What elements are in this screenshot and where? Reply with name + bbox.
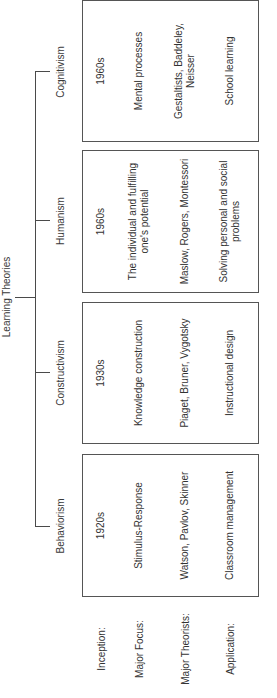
application-value: Solving personal and social problems: [218, 155, 242, 288]
application-value: Classroom management: [224, 459, 236, 592]
tree-horizontal-line: [35, 71, 36, 527]
major-focus-value: Mental processes: [133, 5, 145, 137]
theory-name-cognitivism: Cognitivism: [55, 17, 67, 127]
major-theorists-value: Watson, Pavlov, Skinner: [179, 459, 191, 592]
root-connector-line: [15, 297, 35, 298]
inception-value: 1920s: [95, 459, 107, 592]
row-label-major-focus: Major Focus:: [134, 600, 146, 698]
major-theorists-value: Maslow, Rogers, Montessori: [179, 155, 191, 288]
inception-value: 1930s: [95, 307, 107, 439]
theory-name-humanism: Humanism: [55, 166, 67, 276]
major-focus-value: Knowledge construction: [133, 307, 145, 439]
row-label-inception: Inception:: [96, 600, 108, 698]
major-focus-value: Stimulus-Response: [133, 459, 145, 592]
row-label-major-theorists: Major Theorists:: [180, 600, 192, 698]
inception-value: 1960s: [95, 5, 107, 137]
theory-box-behaviorism: 1920s Stimulus-Response Watson, Pavlov, …: [82, 454, 259, 597]
application-value: Instructional design: [224, 307, 236, 439]
branch-line-behaviorism: [35, 526, 50, 527]
theory-name-constructivism: Constructivism: [55, 318, 67, 428]
branch-line-humanism: [35, 220, 50, 221]
inception-value: 1960s: [95, 155, 107, 288]
theory-box-cognitivism: 1960s Mental processes Gestaltists, Badd…: [82, 0, 259, 142]
branch-line-constructivism: [35, 372, 50, 373]
major-focus-value: The individual and fulfilling one's pote…: [127, 155, 151, 288]
major-theorists-value: Piaget, Bruner, Vygotsky: [179, 307, 191, 439]
theory-box-humanism: 1960s The individual and fulfilling one'…: [82, 150, 259, 293]
theory-box-constructivism: 1930s Knowledge construction Piaget, Bru…: [82, 302, 259, 444]
learning-theories-diagram: Learning Theories Behaviorism Constructi…: [0, 0, 277, 698]
diagram-title: Learning Theories: [1, 237, 13, 357]
theory-name-behaviorism: Behaviorism: [55, 471, 67, 581]
row-label-application: Application:: [225, 600, 237, 698]
application-value: School learning: [224, 5, 236, 137]
major-theorists-value: Gestaltists, Baddeley, Neisser: [173, 5, 197, 137]
branch-line-cognitivism: [35, 71, 50, 72]
